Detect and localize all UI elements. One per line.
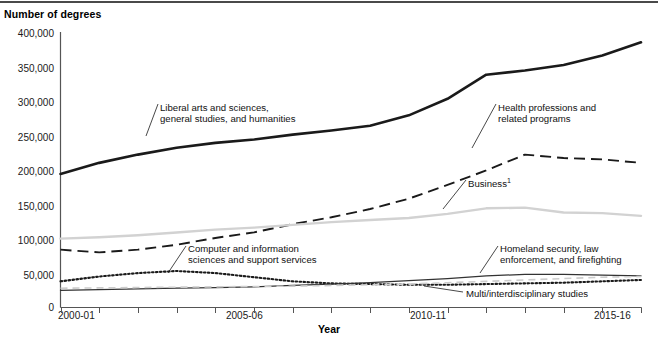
series-line-multi-interdisciplinary-studies — [61, 277, 642, 289]
axes-layer — [61, 32, 642, 308]
x-tick-marks — [62, 308, 642, 314]
chart-container: Number of degrees 400,000 350,000 300,00… — [0, 0, 658, 341]
leader-line-health — [472, 104, 496, 148]
series-line-health-professions-and-related-programs — [61, 155, 642, 253]
data-series-layer — [61, 42, 642, 290]
leader-line-computer — [168, 246, 186, 273]
leader-line-liberal-arts — [146, 104, 158, 136]
series-line-liberal-arts-and-sciences-general-studies-and-humanities — [61, 42, 642, 174]
leader-line-multi — [424, 286, 463, 292]
plot-area — [0, 0, 658, 341]
leader-line-homeland — [480, 246, 498, 273]
series-line-computer-and-information-sciences-and-support-services — [61, 271, 642, 285]
